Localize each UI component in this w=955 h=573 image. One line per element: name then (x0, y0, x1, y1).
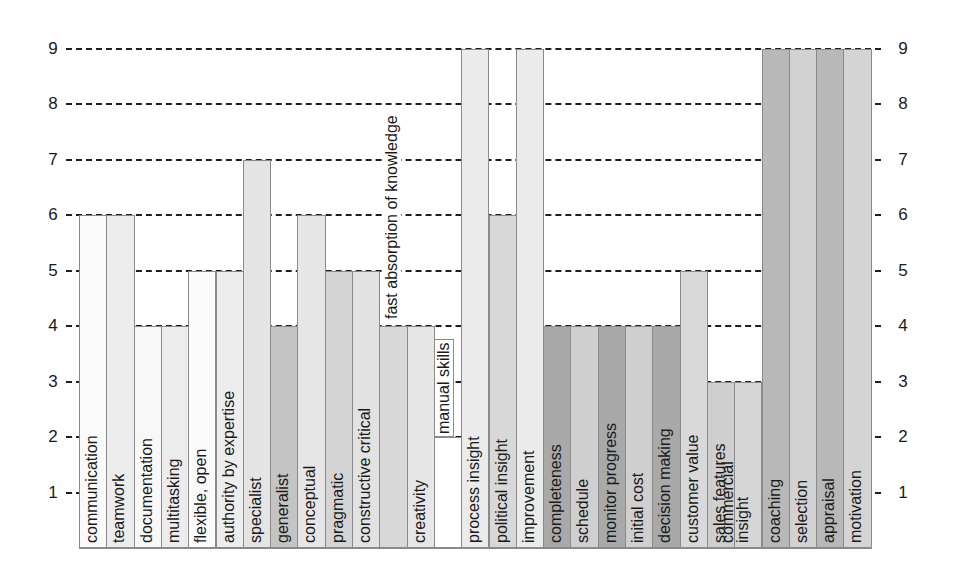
bar-label: multitasking (165, 459, 183, 543)
bar (816, 49, 844, 549)
bar-label: fast absorption of knowledge (383, 112, 401, 322)
y-tick-label: 2 (43, 428, 63, 445)
bar-label: manual skills (434, 339, 454, 437)
bar-label: monitor progress (602, 423, 620, 543)
bar-label: constructive critical (356, 408, 374, 543)
bar (379, 326, 407, 548)
bar-label: creativity (411, 480, 429, 543)
y-tick-label: 8 (893, 95, 913, 112)
bar-label: documentation (138, 438, 156, 543)
y-tick-label: 6 (43, 206, 63, 223)
bar-label: communication (83, 435, 101, 543)
bar-label: customer value (684, 435, 702, 544)
bar-label: specialist (247, 477, 265, 543)
bar-label: motivation (847, 470, 865, 543)
bar-label: appraisal (820, 478, 838, 543)
bar (762, 49, 790, 549)
bar (434, 437, 462, 548)
bar-label: initial cost (629, 473, 647, 543)
bar-chart: communicationteamworkdocumentationmultit… (0, 0, 955, 573)
y-tick-label: 7 (893, 151, 913, 168)
y-tick-label: 1 (43, 484, 63, 501)
bar-label: pragmatic (329, 473, 347, 543)
y-tick-label: 3 (43, 373, 63, 390)
bar (789, 49, 817, 549)
y-tick-label: 5 (893, 262, 913, 279)
bar-label: selection (793, 480, 811, 543)
y-tick-label: 7 (43, 151, 63, 168)
bar-label: decision making (656, 428, 674, 543)
y-tick-label: 1 (893, 484, 913, 501)
bar-label: completeness (547, 444, 565, 543)
bar-label: process insight (465, 436, 483, 543)
y-tick-label: 2 (893, 428, 913, 445)
bar-label: coaching (766, 479, 784, 543)
bar-label: conceptual (301, 466, 319, 543)
bar-label: improvement (520, 451, 538, 543)
bar-label: schedule (574, 479, 592, 543)
y-tick-label: 3 (893, 373, 913, 390)
y-tick-label: 4 (43, 317, 63, 334)
y-tick-label: 8 (43, 95, 63, 112)
baseline (79, 548, 872, 549)
bar-label: authority by expertise (220, 391, 238, 543)
bar-label: commercial insight (720, 461, 750, 543)
bar-label: generalist (274, 474, 292, 543)
y-tick-label: 6 (893, 206, 913, 223)
y-tick-label: 4 (893, 317, 913, 334)
y-tick-label: 9 (893, 40, 913, 57)
axis-line-left (79, 215, 80, 548)
y-tick-label: 5 (43, 262, 63, 279)
bar-label: teamwork (110, 474, 128, 543)
y-tick-label: 9 (43, 40, 63, 57)
bar-label: flexible, open (192, 449, 210, 543)
bar-label: political insight (493, 439, 511, 543)
